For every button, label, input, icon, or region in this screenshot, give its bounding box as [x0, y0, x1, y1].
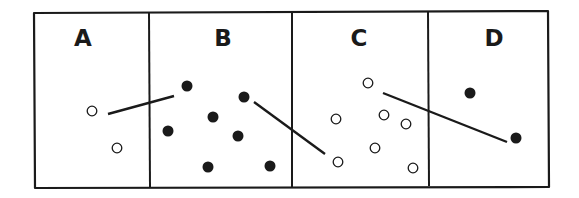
- panel-d-dots: [465, 88, 522, 144]
- connector-line-3: [383, 93, 507, 142]
- open-dot: [112, 143, 122, 153]
- panel-label-d: D: [484, 25, 503, 51]
- panel-b-dots: [163, 81, 276, 173]
- filled-dot: [465, 88, 476, 99]
- panel-a-dots: [87, 106, 122, 153]
- dots-layer: [87, 78, 521, 173]
- filled-dot: [265, 161, 276, 172]
- open-dot: [370, 143, 380, 153]
- panel-label-a: A: [74, 25, 92, 51]
- connector-lines: [108, 93, 507, 154]
- open-dot: [87, 106, 97, 116]
- filled-dot: [239, 92, 250, 103]
- divider-c-d: [428, 12, 429, 186]
- panel-label-c: C: [351, 25, 368, 51]
- filled-dot: [511, 133, 522, 144]
- open-dot: [379, 110, 389, 120]
- panel-c-dots: [331, 78, 418, 173]
- filled-dot: [203, 162, 214, 173]
- four-panel-dot-diagram: A B C D: [0, 0, 579, 198]
- divider-a-b: [149, 13, 150, 187]
- panel-label-b: B: [214, 25, 232, 51]
- open-dot: [331, 114, 341, 124]
- open-dot: [408, 163, 418, 173]
- connector-line-2: [254, 102, 325, 154]
- filled-dot: [208, 112, 219, 123]
- open-dot: [363, 78, 373, 88]
- open-dot: [401, 119, 411, 129]
- filled-dot: [233, 131, 244, 142]
- open-dot: [333, 157, 343, 167]
- filled-dot: [182, 81, 193, 92]
- filled-dot: [163, 126, 174, 137]
- connector-line-1: [108, 96, 174, 114]
